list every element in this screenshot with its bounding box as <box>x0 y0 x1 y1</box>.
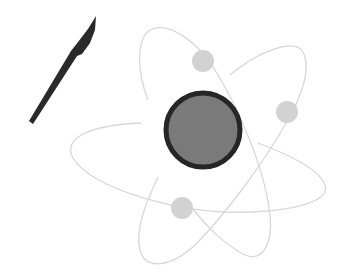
electron-top <box>192 50 214 72</box>
nucleus-icon <box>166 93 240 167</box>
atom-scalpel-illustration <box>0 0 350 278</box>
electron-right <box>276 101 298 123</box>
scalpel-icon <box>29 16 96 124</box>
electron-bottom <box>171 197 193 219</box>
